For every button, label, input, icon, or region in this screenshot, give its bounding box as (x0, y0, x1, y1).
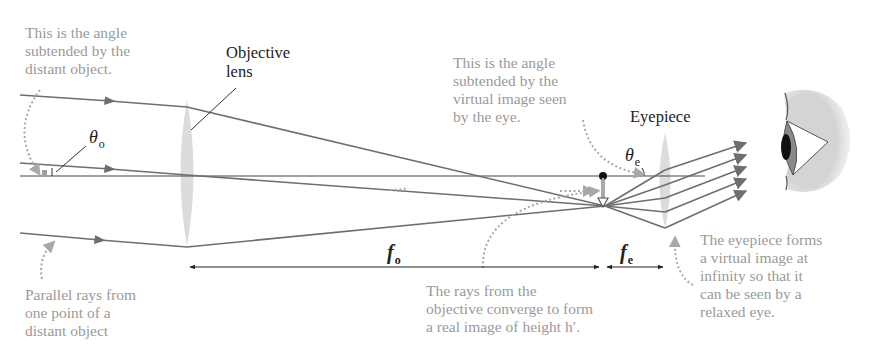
annotation-angle-object: This is the angle subtended by the dista… (25, 24, 130, 78)
objective-lens-label: Objective lens (226, 43, 290, 81)
theta-e-angle-marker (642, 168, 644, 176)
theta-e-symbol: θe (625, 145, 640, 166)
real-image-arrow (598, 172, 608, 207)
eye-icon (781, 90, 850, 192)
theta-o-symbol: θo (89, 127, 105, 148)
f-o-symbol: fo (387, 241, 401, 264)
annotation-real-image: The rays from the objective converge to … (426, 282, 593, 336)
annotation-virtual-image-infinity: The eyepiece forms a virtual image at in… (700, 231, 822, 321)
annotation-angle-virtual-image: This is the angle subtended by the virtu… (453, 54, 567, 126)
annotation-parallel-rays: Parallel rays from one point of a distan… (25, 286, 136, 340)
eyepiece-lens (660, 133, 671, 228)
theta-o-angle-marker (42, 146, 86, 176)
eyepiece-label: Eyepiece (630, 107, 690, 126)
objective-lens (181, 100, 194, 246)
f-e-symbol: fe (620, 241, 633, 264)
